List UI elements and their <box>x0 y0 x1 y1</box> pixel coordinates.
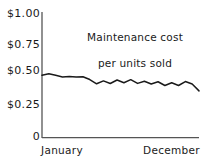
x-axis-label-january: January <box>41 145 83 156</box>
chart-container: $1.00 $0.75 $0.50 $0.25 0 Maintenance co… <box>0 0 202 164</box>
x-axis-label-december: December <box>143 145 200 156</box>
plot-area <box>0 0 202 164</box>
data-line-series <box>42 74 199 91</box>
